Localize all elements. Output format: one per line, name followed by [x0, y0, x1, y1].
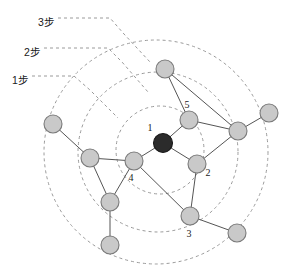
graph-node-nLeftMid[interactable]: [81, 149, 99, 167]
leader-hop2: [44, 48, 148, 92]
node-label-n4: 4: [129, 172, 134, 183]
edge-nTop-nRight: [165, 69, 238, 131]
graph-node-n1[interactable]: [154, 134, 173, 153]
graph-node-n4[interactable]: [125, 152, 143, 170]
leader-hop1: [32, 76, 118, 118]
node-label-n5: 5: [185, 99, 190, 110]
graph-nodes: [44, 60, 278, 254]
hop-distance-diagram: 15243 3步2步1步: [0, 0, 288, 271]
hop-step-label-1: 1步: [12, 72, 28, 87]
graph-node-nRight[interactable]: [229, 122, 247, 140]
graph-node-n5[interactable]: [180, 111, 198, 129]
graph-node-nTop[interactable]: [156, 60, 174, 78]
graph-node-n3[interactable]: [181, 207, 199, 225]
hop-step-label-3: 3步: [38, 14, 54, 29]
leader-hop3: [58, 18, 150, 62]
graph-node-nBotLeft[interactable]: [101, 236, 119, 254]
hop-step-label-2: 2步: [24, 44, 40, 59]
graph-node-nLowLeft[interactable]: [101, 193, 119, 211]
graph-node-n2[interactable]: [188, 155, 206, 173]
edge-n3-n4: [134, 161, 190, 216]
node-label-n3: 3: [187, 228, 192, 239]
hop-ring-2: [78, 72, 238, 232]
node-label-n1: 1: [148, 122, 153, 133]
graph-node-nFarLeft[interactable]: [44, 115, 62, 133]
node-label-n2: 2: [206, 167, 211, 178]
diagram-canvas: 15243: [0, 0, 288, 271]
graph-node-nFarRight[interactable]: [260, 104, 278, 122]
graph-node-nBotRight[interactable]: [228, 224, 246, 242]
label-leader-lines: [32, 18, 150, 118]
